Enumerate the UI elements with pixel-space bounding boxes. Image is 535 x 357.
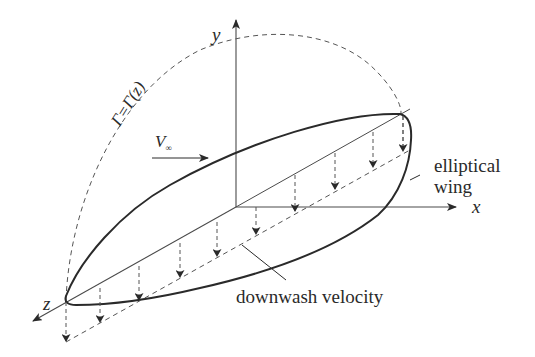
elliptical-wing-diagram: y x z Γ=Γ(z) V∞ elliptical wing downwash… — [0, 0, 535, 357]
freestream-label: V∞ — [155, 132, 172, 153]
wing-label: elliptical wing — [434, 155, 500, 197]
wing-label-leader — [410, 175, 420, 180]
wing-label-line2: wing — [434, 176, 500, 197]
downwash-label: downwash velocity — [236, 286, 383, 307]
freestream-subscript: ∞ — [165, 143, 171, 153]
freestream-symbol: V — [155, 132, 165, 151]
downwash-baseline — [66, 150, 410, 342]
wing-outline — [65, 114, 411, 305]
x-axis-label: x — [472, 196, 480, 218]
y-axis-label: y — [212, 24, 220, 46]
z-axis — [33, 207, 236, 321]
z-axis-label: z — [43, 293, 50, 315]
wing-label-line1: elliptical — [434, 155, 500, 176]
circulation-curve — [66, 34, 401, 300]
